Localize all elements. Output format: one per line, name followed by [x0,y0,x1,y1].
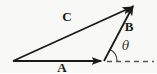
vector-c-label: C [62,9,71,24]
vector-b-label: B [125,19,134,34]
vector-diagram-canvas: A B C θ [0,0,157,73]
vector-a-label: A [57,60,67,74]
vector-diagram-figure: A B C θ [0,0,157,73]
figure-background [0,0,157,73]
angle-theta-label: θ [122,39,130,53]
